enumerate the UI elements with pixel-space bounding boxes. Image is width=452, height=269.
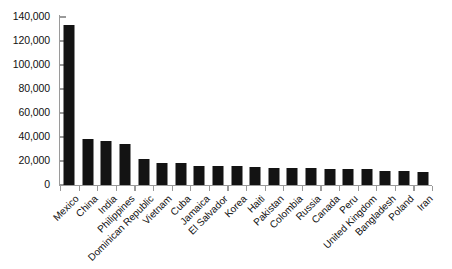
bar xyxy=(287,168,298,185)
bar xyxy=(324,169,335,185)
bar xyxy=(120,144,131,185)
y-tick-label: 60,000 xyxy=(18,106,50,119)
bar xyxy=(361,169,372,185)
x-tick-mark xyxy=(413,186,414,191)
bar xyxy=(343,169,354,185)
bar-slot xyxy=(209,17,228,185)
x-tick-mark xyxy=(302,186,303,191)
bar xyxy=(138,159,149,185)
x-tick-mark xyxy=(395,186,396,191)
bar-slot xyxy=(302,17,321,185)
bar-slot xyxy=(153,17,172,185)
x-tick-mark xyxy=(153,186,154,191)
x-tick-mark xyxy=(227,186,228,191)
y-tick-label: 80,000 xyxy=(18,82,50,95)
bar xyxy=(213,166,224,185)
bar-slot xyxy=(116,17,135,185)
bar-series xyxy=(60,17,432,185)
x-tick-mark xyxy=(60,186,61,191)
bar-slot xyxy=(395,17,414,185)
bar xyxy=(399,171,410,185)
y-tick-label: 0 xyxy=(44,178,50,191)
x-tick-mark xyxy=(283,186,284,191)
bar xyxy=(157,163,168,185)
x-tick-mark xyxy=(432,186,433,191)
bar-slot xyxy=(339,17,358,185)
bar-slot xyxy=(376,17,395,185)
x-tick-mark xyxy=(376,186,377,191)
x-tick-mark xyxy=(79,186,80,191)
bar-slot xyxy=(413,17,432,185)
x-tick-mark xyxy=(134,186,135,191)
x-tick-mark xyxy=(358,186,359,191)
bar-slot xyxy=(172,17,191,185)
x-tick-mark xyxy=(116,186,117,191)
x-tick-mark xyxy=(97,186,98,191)
bar xyxy=(268,168,279,185)
x-tick-mark xyxy=(265,186,266,191)
bar-chart: 020,00040,00060,00080,000100,000120,0001… xyxy=(0,0,452,269)
bar xyxy=(306,168,317,185)
x-tick-mark xyxy=(190,186,191,191)
bar-slot xyxy=(283,17,302,185)
bar xyxy=(101,141,112,185)
y-tick-label: 40,000 xyxy=(18,130,50,143)
bar-slot xyxy=(320,17,339,185)
bar xyxy=(64,25,75,185)
bar-slot xyxy=(134,17,153,185)
x-tick-mark xyxy=(339,186,340,191)
bar xyxy=(82,139,93,185)
x-axis-labels: MexicoChinaIndiaPhilippinesDominican Rep… xyxy=(60,193,432,269)
bar xyxy=(250,167,261,185)
bar xyxy=(231,166,242,185)
y-tick-label: 120,000 xyxy=(13,34,50,47)
bar-slot xyxy=(358,17,377,185)
x-tick-mark xyxy=(320,186,321,191)
bar-slot xyxy=(97,17,116,185)
x-tick-mark xyxy=(172,186,173,191)
bar-slot xyxy=(227,17,246,185)
bar xyxy=(175,163,186,185)
bar-slot xyxy=(190,17,209,185)
x-tick-mark xyxy=(209,186,210,191)
bar-slot xyxy=(79,17,98,185)
bar-slot xyxy=(60,17,79,185)
bar xyxy=(380,171,391,185)
x-tick-mark xyxy=(246,186,247,191)
bar xyxy=(194,166,205,185)
y-tick-label: 100,000 xyxy=(13,58,50,71)
bar-slot xyxy=(246,17,265,185)
x-axis-label: Iran xyxy=(415,193,435,213)
y-tick-label: 20,000 xyxy=(18,154,50,167)
bar-slot xyxy=(265,17,284,185)
bar xyxy=(417,172,428,185)
y-tick-label: 140,000 xyxy=(13,10,50,23)
